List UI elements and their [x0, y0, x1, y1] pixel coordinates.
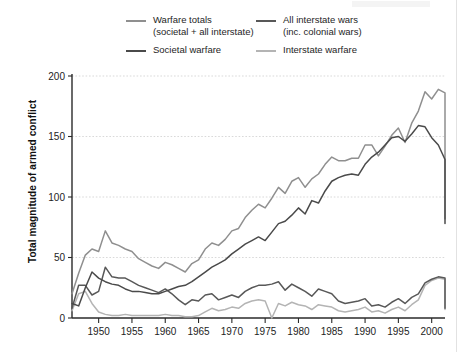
legend-label-warfare-totals-line2: (societal + all interstate)	[153, 26, 254, 37]
legend-label-all-interstate-wars: All interstate wars(inc. colonial wars)	[283, 14, 362, 37]
y-tick-label-100: 100	[48, 192, 65, 203]
legend-item-societal-warfare: Societal warfare	[126, 44, 221, 56]
series-line-interstate-warfare	[72, 278, 445, 318]
x-tick-label-1985: 1985	[321, 326, 344, 337]
series-line-warfare-totals-societal-all-interstate	[72, 89, 445, 293]
gridlines-group	[72, 76, 445, 258]
legend-item-interstate-warfare: Interstate warfare	[256, 44, 357, 56]
legend-label-warfare-totals-line1: Warfare totals	[153, 14, 212, 25]
axis-ticks-group	[68, 76, 432, 323]
x-tick-label-2000: 2000	[421, 326, 444, 337]
page-header-artifact	[352, 1, 430, 7]
legend-label-interstate-warfare: Interstate warfare	[283, 44, 357, 56]
x-tick-label-1960: 1960	[154, 326, 177, 337]
legend-swatch-all-interstate-wars	[256, 20, 276, 22]
chart-page: Warfare totals(societal + all interstate…	[0, 0, 471, 352]
x-tick-label-1995: 1995	[387, 326, 410, 337]
legend-label-warfare-totals: Warfare totals(societal + all interstate…	[153, 14, 254, 37]
x-tick-label-1955: 1955	[121, 326, 144, 337]
legend-item-all-interstate-wars: All interstate wars(inc. colonial wars)	[256, 14, 362, 37]
series-group	[72, 89, 445, 318]
axis-tick-labels-group: 0501001502001950195519601965197019751980…	[48, 71, 443, 338]
legend-item-warfare-totals: Warfare totals(societal + all interstate…	[126, 14, 254, 37]
legend-label-societal-warfare: Societal warfare	[153, 44, 221, 56]
x-tick-label-1950: 1950	[88, 326, 111, 337]
x-tick-label-1970: 1970	[221, 326, 244, 337]
y-tick-label-150: 150	[48, 131, 65, 142]
legend-swatch-societal-warfare	[126, 50, 146, 52]
chart-area: Total magnitude of armed conflict 050100…	[0, 66, 471, 352]
legend-swatch-interstate-warfare	[256, 50, 276, 52]
x-tick-label-1990: 1990	[354, 326, 377, 337]
x-tick-label-1980: 1980	[287, 326, 310, 337]
line-chart-plot: 0501001502001950195519601965197019751980…	[0, 66, 471, 352]
y-tick-label-0: 0	[59, 313, 65, 324]
series-line-all-interstate-wars-inc-colonial-wars	[72, 267, 445, 308]
legend-label-all-interstate-wars-line2: (inc. colonial wars)	[283, 26, 362, 37]
x-tick-label-1965: 1965	[187, 326, 210, 337]
legend-label-all-interstate-wars-line1: All interstate wars	[283, 14, 358, 25]
y-tick-label-200: 200	[48, 71, 65, 82]
legend-swatch-warfare-totals	[126, 20, 146, 22]
y-tick-label-50: 50	[54, 252, 66, 263]
chart-legend: Warfare totals(societal + all interstate…	[126, 14, 426, 66]
x-tick-label-1975: 1975	[254, 326, 277, 337]
axes-group	[72, 74, 445, 318]
